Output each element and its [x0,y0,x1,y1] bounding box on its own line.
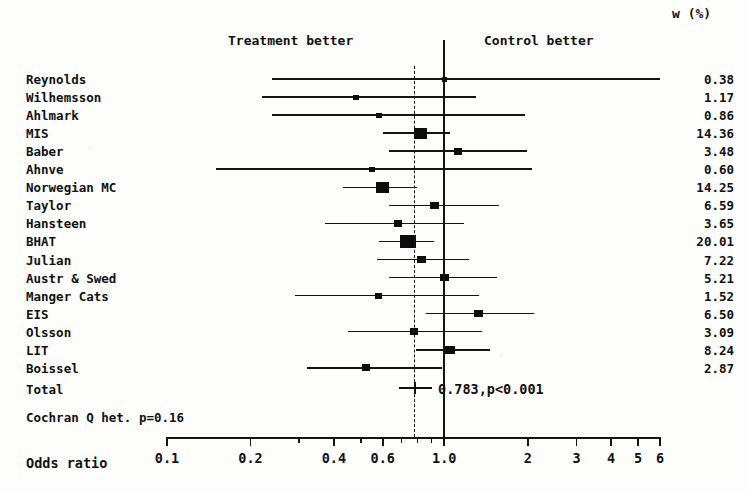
left-region-label: Treatment better [228,33,353,48]
axis-minor-tick [360,437,362,443]
study-weight: 3.09 [664,325,734,340]
axis-tick-label: 1.0 [424,450,464,466]
study-weight: 0.38 [664,72,734,87]
study-weight: 20.01 [664,234,734,249]
axis-tick-label: 2 [508,450,548,466]
study-effect-marker [375,293,382,299]
axis-tick-label: 0.4 [314,450,354,466]
study-label: LIT [26,343,49,358]
study-effect-marker [353,95,359,100]
axis-tick [576,437,578,446]
study-effect-marker [474,310,483,317]
axis-minor-tick [298,437,300,443]
axis-tick [659,437,661,446]
study-label: Austr & Swed [26,271,116,286]
study-label: MIS [26,126,49,141]
study-label: Ahnve [26,162,64,177]
confidence-interval-line [295,295,478,297]
study-label: Taylor [26,198,71,213]
weight-column-header: w (%) [672,6,711,21]
study-effect-marker [414,128,427,139]
reference-line [443,40,445,437]
right-region-label: Control better [484,33,594,48]
study-label: BHAT [26,234,56,249]
study-label: Wilhemsson [26,90,101,105]
axis-tick [610,437,612,446]
pooled-effect-marker [414,382,416,394]
study-effect-marker [369,167,375,172]
study-weight: 6.59 [664,198,734,213]
axis-tick-label: 0.1 [147,450,187,466]
study-label: Manger Cats [26,289,109,304]
study-weight: 1.17 [664,90,734,105]
study-label: Julian [26,253,71,268]
study-weight: 14.36 [664,126,734,141]
study-effect-marker [376,113,382,118]
study-weight: 8.24 [664,343,734,358]
confidence-interval-line [272,114,524,116]
study-label: Boissel [26,361,79,376]
axis-tick [166,437,168,446]
study-label: Olsson [26,325,71,340]
forest-plot: w (%) Treatment better Control better Od… [0,0,748,493]
study-effect-marker [417,256,426,263]
study-label: EIS [26,307,49,322]
study-weight: 1.52 [664,289,734,304]
axis-tick [443,437,445,446]
axis-minor-tick [431,437,433,443]
study-weight: 5.21 [664,271,734,286]
study-label: Hansteen [26,216,86,231]
axis-tick-label: 0.6 [363,450,403,466]
confidence-interval-line [272,78,660,80]
total-annotation: 0.783,p<0.001 [438,381,544,397]
study-label: Norwegian MC [26,180,116,195]
study-weight: 2.87 [664,361,734,376]
study-weight: 3.65 [664,216,734,231]
study-effect-marker [445,346,455,354]
axis-baseline [167,437,660,439]
study-effect-marker [362,364,370,371]
axis-title: Odds ratio [26,455,107,471]
study-label: Baber [26,144,64,159]
study-label: Reynolds [26,72,86,87]
total-label: Total [26,382,64,397]
confidence-interval-line [307,367,442,369]
axis-tick-label: 0.2 [230,450,270,466]
axis-tick-label: 6 [640,450,680,466]
axis-tick [250,437,252,446]
heterogeneity-label: Cochran Q het. p=0.16 [26,410,184,425]
axis-tick [333,437,335,446]
study-weight: 7.22 [664,253,734,268]
axis-tick [382,437,384,446]
study-weight: 3.48 [664,144,734,159]
study-effect-marker [376,182,389,193]
study-label: Ahlmark [26,108,79,123]
study-weight: 0.60 [664,162,734,177]
study-effect-marker [430,202,439,209]
study-weight: 0.86 [664,108,734,123]
study-weight: 6.50 [664,307,734,322]
axis-tick [637,437,639,446]
axis-tick [527,437,529,446]
study-weight: 14.25 [664,180,734,195]
axis-minor-tick [401,437,403,443]
study-effect-marker [454,148,462,155]
axis-minor-tick [417,437,419,443]
study-effect-marker [394,220,402,227]
